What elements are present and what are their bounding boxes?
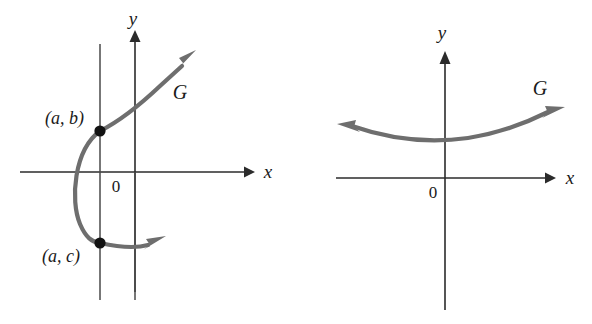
figure-canvas: (a, b) (a, c) G 0 x y G	[0, 0, 592, 324]
left-curve-upper-arrowhead	[176, 50, 196, 71]
left-panel: (a, b) (a, c) G 0 x y	[20, 8, 273, 300]
left-y-axis-label: y	[127, 8, 138, 29]
point-a-b	[94, 125, 105, 136]
left-x-axis-label: x	[263, 161, 273, 182]
left-origin-label: 0	[112, 177, 121, 196]
left-curve-lower-arrowhead	[143, 236, 166, 250]
left-curve-lower-branch	[100, 243, 148, 247]
left-x-axis	[20, 167, 255, 178]
right-x-axis	[336, 173, 556, 184]
point-a-c	[94, 237, 105, 248]
right-y-axis	[440, 51, 451, 310]
right-origin-label: 0	[429, 183, 438, 202]
left-curve-label-g: G	[173, 81, 188, 103]
right-x-axis-label: x	[565, 167, 575, 188]
right-curve-label-g: G	[533, 77, 548, 99]
left-point-a-c-label: (a, c)	[42, 246, 80, 267]
vertical-line-test-figure: (a, b) (a, c) G 0 x y G	[0, 0, 592, 324]
right-y-axis-label: y	[436, 22, 447, 43]
left-curve-upper-branch	[100, 66, 182, 131]
right-panel: G 0 x y	[336, 22, 575, 310]
left-point-a-b-label: (a, b)	[45, 108, 84, 129]
right-curve	[352, 112, 548, 140]
left-curve-bulge	[75, 131, 100, 243]
